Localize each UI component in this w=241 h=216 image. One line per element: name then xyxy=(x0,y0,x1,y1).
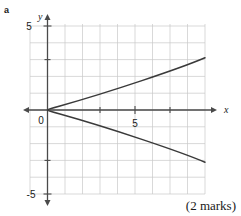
question-figure: a xyxy=(0,0,241,216)
marks-allocation: (2 marks) xyxy=(186,198,236,214)
coordinate-graph-svg: y x 5 -5 5 0 xyxy=(0,0,241,216)
y-tick-label-5: 5 xyxy=(26,21,32,32)
grid-vertical-lines xyxy=(30,24,205,194)
x-axis xyxy=(23,106,217,114)
y-tick-label-minus5: -5 xyxy=(27,189,36,200)
y-axis-label: y xyxy=(37,11,43,22)
x-axis-label: x xyxy=(223,104,229,115)
origin-label: 0 xyxy=(38,115,44,126)
graph-plot-area: y x 5 -5 5 0 xyxy=(0,0,241,216)
x-tick-label-5: 5 xyxy=(132,118,138,129)
